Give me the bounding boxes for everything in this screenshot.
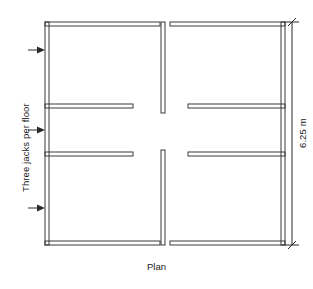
overall-height-dimension-label: 6.25 m <box>297 118 308 148</box>
inner-wall-upper-right <box>188 104 285 108</box>
left-exterior-wall <box>45 22 49 245</box>
centre-divider-lower <box>161 150 165 245</box>
bottom-wall-left <box>45 241 160 245</box>
inner-wall-lower-left <box>45 152 133 156</box>
wall-group <box>45 22 285 245</box>
top-wall-left <box>45 22 160 26</box>
jack-arrow-bottom <box>28 205 45 212</box>
three-jacks-per-floor-label: Three jacks per floor <box>20 103 31 192</box>
top-wall-right <box>170 22 285 26</box>
jack-arrow-top <box>28 47 45 54</box>
floor-plan-drawing <box>0 0 313 289</box>
inner-wall-lower-right <box>188 152 285 156</box>
inner-wall-upper-left <box>45 104 133 108</box>
bottom-wall-right <box>170 241 285 245</box>
plan-figure: Three jacks per floor 6.25 m Plan <box>0 0 313 289</box>
plan-caption: Plan <box>0 261 313 272</box>
right-exterior-wall <box>281 22 285 245</box>
centre-divider-upper <box>161 22 165 113</box>
